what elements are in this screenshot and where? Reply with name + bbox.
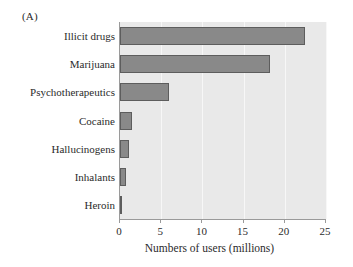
x-axis-tick-label: 20 — [264, 225, 304, 237]
x-axis-tick — [201, 219, 202, 223]
x-axis-tick — [119, 219, 120, 223]
x-axis-tick-label: 25 — [305, 225, 345, 237]
bar — [120, 55, 270, 73]
x-axis-tick — [284, 219, 285, 223]
y-axis-label: Illicit drugs — [64, 30, 115, 42]
y-axis-label: Psychotherapeutics — [30, 86, 115, 98]
bar — [120, 27, 305, 45]
x-axis-title-text: Numbers of users (millions) — [145, 242, 274, 255]
figure-panel-a: (A) Illicit drugsMarijuanaPsychotherapeu… — [0, 0, 353, 267]
x-axis-tick — [160, 219, 161, 223]
x-axis-tick-label: 15 — [223, 225, 263, 237]
x-axis-title: Numbers of users (millions) — [0, 242, 353, 255]
bar — [120, 140, 129, 158]
y-axis-label: Marijuana — [70, 58, 115, 70]
x-axis-tick — [243, 219, 244, 223]
bar — [120, 196, 122, 214]
plot-area — [119, 22, 326, 220]
gridline — [326, 22, 327, 219]
y-axis-label: Hallucinogens — [51, 143, 115, 155]
x-axis-tick-label: 10 — [181, 225, 221, 237]
bar — [120, 112, 132, 130]
y-axis-label: Cocaine — [79, 115, 115, 127]
x-axis-tick — [325, 219, 326, 223]
bar-series — [120, 22, 326, 219]
panel-label: (A) — [22, 10, 38, 22]
bar — [120, 83, 169, 101]
y-axis-label: Inhalants — [75, 171, 115, 183]
y-axis-label: Heroin — [84, 199, 115, 211]
x-axis-tick-label: 5 — [140, 225, 180, 237]
bar — [120, 168, 126, 186]
x-axis-tick-label: 0 — [99, 225, 139, 237]
